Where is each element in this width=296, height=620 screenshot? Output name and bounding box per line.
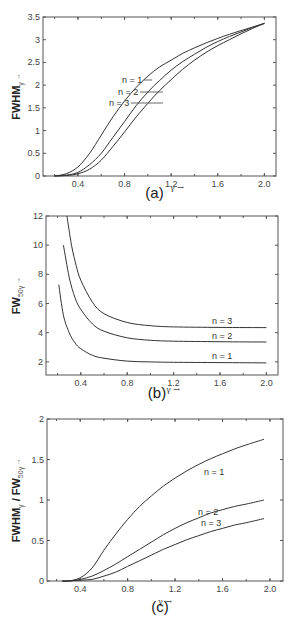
curve-n=3 xyxy=(55,23,265,176)
y-tick-label: 1.5 xyxy=(31,455,44,465)
y-tick-label: 1.5 xyxy=(27,103,40,113)
panel-caption: (c) xyxy=(151,598,169,615)
plot-frame xyxy=(47,419,283,581)
x-tick-label: 0.4 xyxy=(74,584,87,594)
curve-n=2 xyxy=(62,500,264,581)
y-tick-label: 6 xyxy=(38,299,43,309)
y-tick-label: 2.5 xyxy=(27,57,40,67)
x-axis-label: γ → xyxy=(170,183,184,192)
y-tick-label: 8 xyxy=(38,269,43,279)
x-tick-label: 0.4 xyxy=(75,378,88,388)
panel-c: 0.40.81.21.62.000.511.52n = 1n = 2n = 3γ… xyxy=(10,414,283,615)
x-tick-label: 2.0 xyxy=(258,179,271,189)
y-axis-label: FWHMγ → xyxy=(10,73,25,120)
y-axis-label: FWHMγ / FW50γ → xyxy=(10,458,25,542)
y-tick-label: 4 xyxy=(38,328,43,338)
y-tick-label: 0 xyxy=(39,576,44,586)
panel-a: 0.40.81.21.62.000.511.522.533.5n = 1n = … xyxy=(10,12,276,201)
series-label: n = 1 xyxy=(122,75,142,85)
y-tick-label: 3 xyxy=(35,35,40,45)
series-label: n = 2 xyxy=(212,331,232,341)
y-tick-label: 0.5 xyxy=(31,536,44,546)
series-label: n = 3 xyxy=(212,316,232,326)
x-tick-label: 1.6 xyxy=(214,378,227,388)
curve-n=1 xyxy=(62,439,264,581)
curve-n=1 xyxy=(55,23,265,176)
x-tick-label: 1.6 xyxy=(211,179,224,189)
y-tick-label: 2 xyxy=(38,357,43,367)
y-tick-label: 2 xyxy=(35,80,40,90)
series-label: n = 3 xyxy=(201,518,221,528)
curve-n=1 xyxy=(59,285,267,363)
series-label: n = 1 xyxy=(212,351,232,361)
plot-frame xyxy=(46,216,278,375)
x-tick-label: 1.6 xyxy=(216,584,229,594)
panel-caption: (b) xyxy=(148,384,166,401)
curve-n=2 xyxy=(55,23,265,176)
panel-b: 0.40.81.21.62.024681012n = 3n = 2n = 1γ … xyxy=(10,211,278,401)
y-tick-label: 10 xyxy=(33,240,43,250)
y-tick-label: 1 xyxy=(39,495,44,505)
curve-n=3 xyxy=(67,216,267,328)
x-tick-label: 0.8 xyxy=(118,179,131,189)
y-tick-label: 12 xyxy=(33,211,43,221)
curve-n=3 xyxy=(62,519,264,581)
y-tick-label: 0.5 xyxy=(27,148,40,158)
series-label: n = 1 xyxy=(204,467,224,477)
series-label: n = 2 xyxy=(198,507,218,517)
x-tick-label: 1.2 xyxy=(169,584,182,594)
x-tick-label: 2.0 xyxy=(264,584,277,594)
y-tick-label: 3.5 xyxy=(27,12,40,22)
plot-frame xyxy=(43,17,276,176)
y-axis-label: FW50γ → xyxy=(10,277,25,314)
series-label: n = 3 xyxy=(109,98,129,108)
x-tick-label: 0.8 xyxy=(121,584,134,594)
x-tick-label: 2.0 xyxy=(260,378,273,388)
series-label: n = 2 xyxy=(118,87,138,97)
y-tick-label: 0 xyxy=(35,171,40,181)
y-tick-label: 2 xyxy=(39,414,44,424)
x-tick-label: 0.8 xyxy=(121,378,134,388)
panel-caption: (a) xyxy=(145,184,163,201)
x-axis-label: γ → xyxy=(166,385,180,394)
x-tick-label: 0.4 xyxy=(72,179,85,189)
figure: 0.40.81.21.62.000.511.522.533.5n = 1n = … xyxy=(0,0,296,620)
y-tick-label: 1 xyxy=(35,126,40,136)
